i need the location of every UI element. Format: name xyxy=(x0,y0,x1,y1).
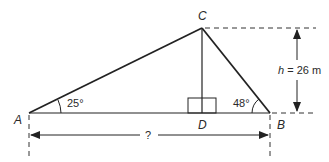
label-c: C xyxy=(198,9,207,23)
angle-arc-a xyxy=(58,100,61,113)
height-value: = 26 m xyxy=(284,64,321,76)
angle-label-a: 25° xyxy=(67,97,84,109)
side-ac xyxy=(29,28,202,113)
label-a: A xyxy=(13,113,22,127)
base-unknown-label: ? xyxy=(145,129,151,141)
triangle-diagram: A B C D 25° 48° ? h = 26 m xyxy=(0,0,329,162)
label-b: B xyxy=(277,118,285,132)
angle-label-b: 48° xyxy=(233,97,250,109)
height-label: h = 26 m xyxy=(278,64,321,76)
angle-arc-b xyxy=(252,99,259,113)
label-d: D xyxy=(198,118,207,132)
